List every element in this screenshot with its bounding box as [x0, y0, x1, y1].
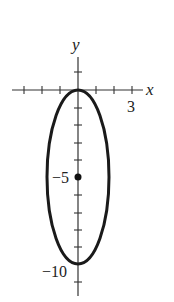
x-tick-label-3: 3	[127, 98, 135, 115]
x-axis-label: x	[145, 80, 154, 99]
y-tick-label-neg10: −10	[42, 263, 67, 280]
y-axis-label: y	[70, 35, 80, 54]
ellipse-graph: x y 3 −5 −10	[0, 0, 174, 302]
y-tick-label-neg5: −5	[52, 169, 69, 186]
center-point	[75, 174, 82, 181]
